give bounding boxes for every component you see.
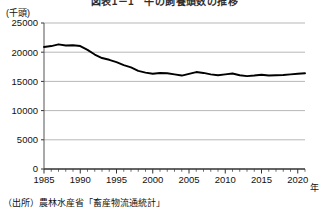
y-tick-label: 15000 [12,76,38,87]
x-axis-tick-labels: 19851990199520002005201020152020 [33,174,308,185]
y-axis-tick-labels: 0500010000150002000025000 [12,17,38,174]
x-tick-label: 1990 [70,174,91,185]
x-tick-label: 2010 [215,174,236,185]
horizontal-gridlines [41,23,305,169]
data-series-line [44,44,305,76]
chart-figure: 図表1－1 牛の飼養頭数の推移 (千頭) 年 05000100001500020… [0,0,329,213]
x-tick-label: 1985 [33,174,54,185]
x-tick-label: 2020 [287,174,308,185]
y-tick-label: 5000 [17,134,38,145]
source-note: （出所）農林水産省「畜産物流通統計」 [3,196,165,209]
x-axis-ticks [44,169,305,174]
y-tick-label: 0 [33,163,38,174]
y-tick-label: 25000 [12,17,38,28]
x-tick-label: 1995 [106,174,127,185]
x-tick-label: 2000 [142,174,163,185]
x-tick-label: 2005 [178,174,199,185]
y-tick-label: 20000 [12,47,38,58]
line-chart-plot: 0500010000150002000025000 19851990199520… [0,0,329,213]
y-tick-label: 10000 [12,105,38,116]
x-tick-label: 2015 [251,174,272,185]
